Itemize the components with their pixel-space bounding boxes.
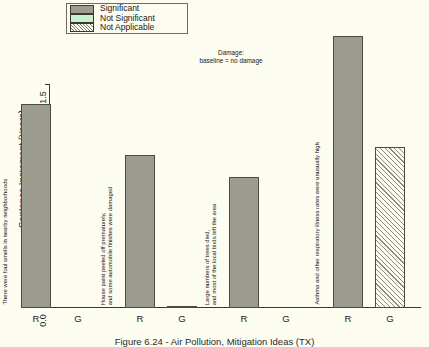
y-tick-label: 1.5 [38, 91, 48, 104]
x-axis-tick-labels: RGRGRGRG [49, 309, 421, 325]
figure-caption: Figure 6.24 - Air Pollution, Mitigation … [0, 336, 429, 347]
bar-caption-4: Asthma and other respiratory illness rat… [314, 143, 321, 305]
plot-area: Sentence Increment (Years) 0.00.51.01.5 … [49, 30, 421, 308]
x-tick-label: G [386, 313, 393, 324]
bar-2-g [167, 306, 197, 308]
legend-label-column: Significant Not Significant Not Applicab… [100, 4, 155, 33]
x-tick-label: G [178, 313, 185, 324]
x-tick-label: R [241, 313, 248, 324]
x-tick-label: R [345, 313, 352, 324]
x-tick-label: R [33, 313, 40, 324]
legend-swatch-significant [70, 5, 94, 14]
bar-caption-1: There were foul smells in nearby neighbo… [2, 179, 9, 305]
y-tick-mark [45, 84, 49, 85]
bar-3-r [229, 177, 259, 308]
x-tick-label: R [137, 313, 144, 324]
bar-4-g [375, 147, 405, 308]
bar-caption-3: Large numbers of trees died,and most of … [204, 203, 217, 305]
legend-swatch-column [70, 5, 94, 32]
legend-swatch-not-significant [70, 14, 94, 23]
bar-4-r [333, 36, 363, 308]
bar-caption-2: House paint peeled off prematurely,and s… [100, 186, 113, 305]
x-tick-label: G [282, 313, 289, 324]
bar-1-r [21, 104, 51, 308]
bar-2-r [125, 155, 155, 308]
x-tick-label: G [74, 313, 81, 324]
